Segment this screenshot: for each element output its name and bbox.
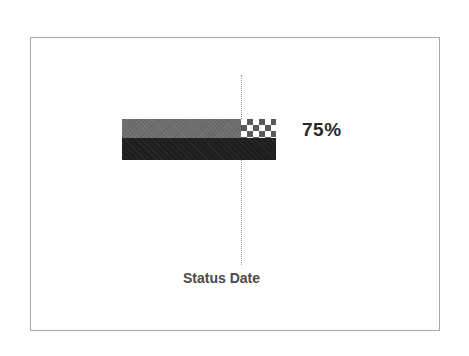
progress-bar-remaining-checker [241,119,276,138]
status-date-line [241,75,242,265]
diagram-frame [30,37,440,331]
progress-bar-baseline [122,138,276,160]
percent-complete-label: 75% [302,119,342,141]
status-date-label: Status Date [183,270,260,286]
progress-bar [122,119,276,160]
